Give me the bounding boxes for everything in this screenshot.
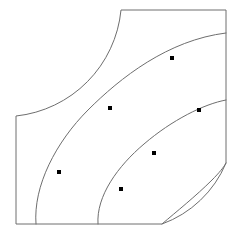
node-4 bbox=[119, 187, 123, 191]
node-6 bbox=[197, 108, 201, 112]
boundary-curve-3 bbox=[162, 163, 226, 224]
interior-curve-2 bbox=[98, 100, 226, 224]
node-3 bbox=[170, 56, 174, 60]
figure-container bbox=[0, 0, 238, 239]
region-outline bbox=[16, 10, 226, 224]
node-2 bbox=[108, 106, 112, 110]
node-5 bbox=[152, 151, 156, 155]
interior-curves-group bbox=[36, 33, 226, 224]
interior-curve-1 bbox=[36, 33, 226, 224]
node-markers-group bbox=[57, 56, 201, 191]
node-1 bbox=[57, 170, 61, 174]
geometric-figure-canvas bbox=[0, 0, 238, 239]
boundary-group bbox=[16, 10, 226, 224]
